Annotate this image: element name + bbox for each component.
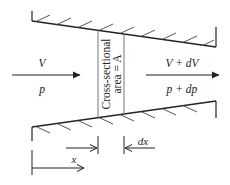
outlet-flow: V + dV p + dp <box>146 57 219 96</box>
x-dimension: x <box>32 150 84 175</box>
outlet-pressure-label: p + dp <box>166 83 198 96</box>
dx-dimension: dx <box>66 135 155 154</box>
x-label: x <box>71 153 77 165</box>
inlet-flow: V p <box>12 57 80 96</box>
duct-diagram: Cross-sectional area = A V p V + dV p + … <box>0 0 230 185</box>
bottom-wall-hatching <box>36 106 197 134</box>
inlet-pressure-label: p <box>38 83 45 96</box>
section-label-line2: area = A <box>111 54 123 94</box>
top-wall-hatching <box>36 15 214 46</box>
inlet-velocity-label: V <box>38 57 47 69</box>
outlet-velocity-label: V + dV <box>165 57 200 69</box>
cross-section-element: Cross-sectional area = A <box>98 31 124 118</box>
dx-label: dx <box>138 135 149 147</box>
